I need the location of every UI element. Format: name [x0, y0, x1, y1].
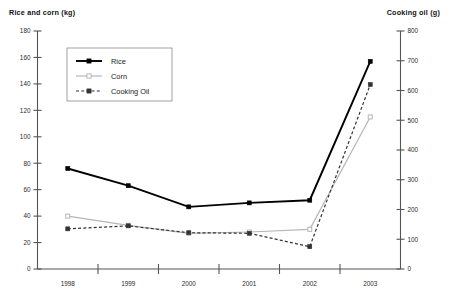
data-point-marker [368, 83, 372, 87]
chart-legend: RiceCornCooking Oil [67, 48, 172, 101]
data-point-marker [368, 115, 372, 119]
plot-area: 020406080100120140160180 010020030040050… [0, 0, 449, 301]
right-axis-tick-label: 100 [408, 236, 419, 243]
left-axis-tick-label: 0 [27, 265, 31, 272]
data-point-marker [66, 227, 70, 231]
right-axis: 0100200300400500600700800 [397, 27, 419, 272]
data-point-marker [66, 214, 70, 218]
x-axis-tick-label: 2001 [242, 280, 257, 287]
right-axis-tick-label: 600 [408, 87, 419, 94]
left-axis-tick-label: 60 [23, 186, 31, 193]
right-axis-title: Cooking oil (g) [387, 8, 440, 17]
data-point-marker [126, 184, 130, 188]
left-axis-tick-label: 20 [23, 239, 31, 246]
legend-label-cooking-oil: Cooking Oil [111, 87, 150, 96]
x-axis: 199819992000200120022003 [38, 264, 401, 287]
x-axis-tick-label: 2000 [182, 280, 197, 287]
right-axis-tick-label: 800 [408, 27, 419, 34]
right-axis-tick-label: 700 [408, 57, 419, 64]
data-point-marker [247, 231, 251, 235]
left-axis-title: Rice and corn (kg) [9, 8, 75, 17]
left-axis-tick-label: 160 [20, 54, 31, 61]
legend-label-corn: Corn [111, 72, 127, 81]
left-axis-tick-label: 80 [23, 160, 31, 167]
data-point-marker [308, 227, 312, 231]
data-point-marker [126, 224, 130, 228]
data-point-marker [308, 198, 312, 202]
x-axis-tick-label: 2002 [303, 280, 318, 287]
left-axis-tick-label: 140 [20, 80, 31, 87]
legend-marker-sample [87, 59, 91, 63]
series-cooking-oil [66, 83, 373, 249]
right-axis-tick-label: 400 [408, 146, 419, 153]
data-point-marker [308, 245, 312, 249]
data-point-marker [187, 231, 191, 235]
legend-label-rice: Rice [111, 57, 126, 66]
data-point-marker [66, 167, 70, 171]
right-axis-tick-label: 0 [408, 265, 412, 272]
left-axis-tick-label: 40 [23, 212, 31, 219]
right-axis-tick-label: 300 [408, 176, 419, 183]
x-axis-tick-label: 2003 [363, 280, 378, 287]
left-axis-tick-label: 100 [20, 133, 31, 140]
line-chart: Rice and corn (kg) Cooking oil (g) 02040… [0, 0, 449, 301]
legend-marker-sample [87, 74, 91, 78]
left-axis-tick-label: 180 [20, 27, 31, 34]
legend-marker-sample [87, 89, 91, 93]
x-axis-tick-label: 1999 [121, 280, 136, 287]
left-axis: 020406080100120140160180 [20, 27, 42, 272]
x-axis-tick-label: 1998 [61, 280, 76, 287]
right-axis-tick-label: 500 [408, 117, 419, 124]
series-corn [66, 115, 373, 235]
data-point-marker [247, 201, 251, 205]
left-axis-tick-label: 120 [20, 107, 31, 114]
data-point-marker [368, 59, 372, 63]
data-point-marker [187, 205, 191, 209]
right-axis-tick-label: 200 [408, 206, 419, 213]
